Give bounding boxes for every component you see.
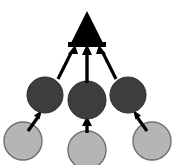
diagram-svg xyxy=(0,0,174,165)
diagram-canvas xyxy=(0,0,174,165)
mid-left-circle[interactable] xyxy=(27,77,63,113)
mid-center-circle[interactable] xyxy=(68,81,106,119)
leaf-left-circle[interactable] xyxy=(4,122,42,160)
mid-right-circle[interactable] xyxy=(110,77,146,113)
leaf-center-circle[interactable] xyxy=(68,131,106,165)
root-triangle-base xyxy=(68,42,106,47)
leaf-right-circle[interactable] xyxy=(133,122,171,160)
